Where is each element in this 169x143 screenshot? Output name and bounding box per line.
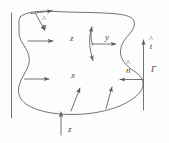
axis-y-label: y bbox=[105, 33, 109, 42]
axis-z-lower-label: z bbox=[68, 125, 72, 134]
boundary-gamma-label: Γ bbox=[151, 65, 156, 74]
normal-right-label: ^ n bbox=[126, 62, 131, 75]
vector-field-figure: ^ n z y x ^ t Γ ^ n z bbox=[0, 0, 169, 143]
bottom-arrow-right bbox=[106, 87, 112, 109]
bottom-arrow-left bbox=[71, 88, 80, 111]
tangent-right-label: ^ t bbox=[149, 38, 153, 51]
axis-z-upper-label: z bbox=[70, 34, 74, 43]
normal-top-label: ^ n bbox=[42, 18, 47, 31]
axis-x-label: x bbox=[71, 71, 75, 80]
inner-arc-upper-arrow bbox=[91, 27, 93, 45]
figure-canvas bbox=[0, 0, 169, 143]
region-boundary bbox=[19, 11, 144, 114]
